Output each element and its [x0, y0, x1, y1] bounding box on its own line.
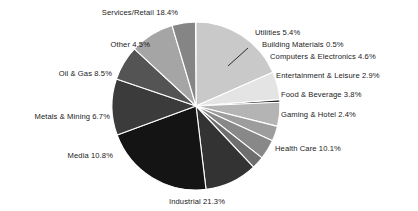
pie-label-entertainment-leisure: Entertainment & Leisure 2.9%	[276, 72, 380, 80]
pie-label-utilities: Utilities 5.4%	[255, 29, 300, 37]
pie-label-building-materials: Building Materials 0.5%	[262, 41, 344, 49]
pie-label-services-retail: Services/Retail 18.4%	[0, 9, 280, 17]
pie-label-oil-gas: Oil & Gas 8.5%	[59, 70, 112, 78]
pie-chart-figure: Services/Retail 18.4%Utilities 5.4%Build…	[0, 0, 418, 211]
pie-label-metals-mining: Metals & Mining 6.7%	[35, 113, 110, 121]
pie-label-health-care: Health Care 10.1%	[275, 145, 341, 153]
pie-label-other: Other 4.5%	[111, 41, 150, 49]
pie-label-food-beverage: Food & Beverage 3.8%	[281, 91, 362, 99]
pie-label-gaming-hotel: Gaming & Hotel 2.4%	[281, 111, 356, 119]
pie-chart-canvas	[0, 0, 418, 211]
pie-label-industrial: Industrial 21.3%	[0, 198, 394, 206]
pie-label-media: Media 10.8%	[68, 152, 113, 160]
pie-label-computers-electronics: Computers & Electronics 4.6%	[270, 53, 376, 61]
